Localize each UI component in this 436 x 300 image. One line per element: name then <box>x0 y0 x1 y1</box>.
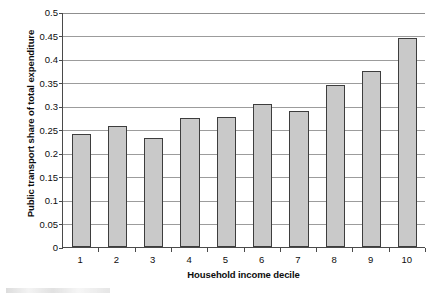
x-axis-tickmark <box>171 248 172 252</box>
y-axis-tickmark <box>59 107 63 108</box>
x-axis-tickmark-group <box>62 248 425 253</box>
x-axis-tickmark <box>280 248 281 252</box>
bar <box>180 118 199 247</box>
x-axis-tick-label-group: 12345678910 <box>62 254 425 268</box>
bars-layer <box>63 13 425 247</box>
y-axis-tick-label: 0.25 <box>24 126 58 136</box>
bar <box>217 117 236 247</box>
x-axis-tick-label: 3 <box>135 254 171 266</box>
x-axis-tick-label: 2 <box>98 254 134 266</box>
bar <box>289 111 308 247</box>
y-axis-tick-label: 0 <box>24 243 58 253</box>
y-axis-tickmark <box>59 36 63 37</box>
y-axis-tickmark <box>59 83 63 84</box>
x-axis-tickmark <box>207 248 208 252</box>
x-axis-tickmark <box>352 248 353 252</box>
x-axis-tickmark <box>425 248 426 252</box>
y-axis-tick-label: 0.1 <box>24 196 58 206</box>
y-axis-tickmark <box>59 177 63 178</box>
y-axis-tick-label: 0.3 <box>24 102 58 112</box>
y-axis-tickmark <box>59 154 63 155</box>
y-axis-tick-label: 0.15 <box>24 173 58 183</box>
x-axis-tick-label: 10 <box>389 254 425 266</box>
bar <box>144 138 163 248</box>
y-axis-tick-label: 0.05 <box>24 220 58 230</box>
x-axis-tick-label: 9 <box>352 254 388 266</box>
y-axis-tickmark <box>59 130 63 131</box>
x-axis-tick-label: 6 <box>244 254 280 266</box>
x-axis-tick-label: 8 <box>316 254 352 266</box>
y-axis-tickmark <box>59 60 63 61</box>
y-axis-tick-label: 0.2 <box>24 149 58 159</box>
x-axis-tick-label: 4 <box>171 254 207 266</box>
y-axis-tick-label: 0.4 <box>24 55 58 65</box>
bar <box>326 85 345 247</box>
scan-artifact <box>6 288 110 293</box>
y-axis-tickmark <box>59 224 63 225</box>
x-axis-tick-label: 1 <box>62 254 98 266</box>
x-axis-tick-label: 7 <box>280 254 316 266</box>
y-axis-tickmark <box>59 201 63 202</box>
x-axis-tick-label: 5 <box>207 254 243 266</box>
y-axis-tick-label-group: 00.050.10.150.20.250.30.350.40.450.5 <box>24 0 58 300</box>
y-axis-tick-label: 0.45 <box>24 32 58 42</box>
bar <box>253 104 272 247</box>
bar <box>398 38 417 247</box>
bar <box>362 71 381 247</box>
bar <box>108 126 127 247</box>
x-axis-tickmark <box>135 248 136 252</box>
x-axis-tickmark <box>389 248 390 252</box>
x-axis-title: Household income decile <box>62 269 425 280</box>
bar <box>72 134 91 247</box>
y-axis-tickmark <box>59 13 63 14</box>
y-axis-tick-label: 0.5 <box>24 8 58 18</box>
x-axis-tickmark <box>316 248 317 252</box>
x-axis-tickmark <box>98 248 99 252</box>
plot-area <box>62 13 425 248</box>
y-axis-tick-label: 0.35 <box>24 79 58 89</box>
bar-chart-figure: Public transport share of total expendit… <box>0 0 436 300</box>
x-axis-tickmark <box>244 248 245 252</box>
